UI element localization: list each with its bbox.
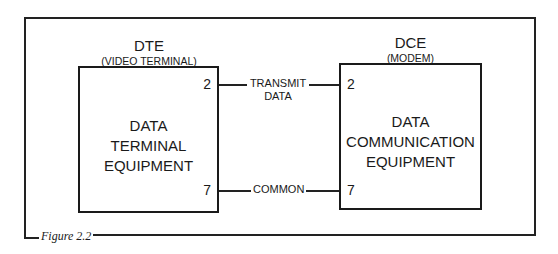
dce-box: DATA COMMUNICATION EQUIPMENT 2 7 xyxy=(339,63,482,210)
dce-box-label: DATA COMMUNICATION EQUIPMENT xyxy=(341,112,480,172)
transmit-data-label-line: DATA xyxy=(249,90,307,103)
dce-box-line: DATA xyxy=(341,112,480,132)
dte-title: DTE xyxy=(78,37,220,54)
figure-caption: Figure 2.2 xyxy=(39,229,93,244)
dte-pin-2: 2 xyxy=(203,76,211,92)
dte-pin-7: 7 xyxy=(203,182,211,198)
dce-pin-2: 2 xyxy=(347,76,355,92)
transmit-data-label: TRANSMIT DATA xyxy=(247,77,309,103)
dte-box-line: DATA xyxy=(80,116,217,136)
dce-pin-7: 7 xyxy=(347,182,355,198)
dce-box-line: COMMUNICATION xyxy=(341,132,480,152)
dce-title: DCE xyxy=(339,34,482,51)
dte-box: DATA TERMINAL EQUIPMENT 2 7 xyxy=(78,66,219,213)
frame-top xyxy=(24,17,536,19)
frame-bottom-left-stub xyxy=(24,237,40,239)
frame-right xyxy=(534,17,536,234)
frame-bottom xyxy=(88,234,536,236)
dte-box-label: DATA TERMINAL EQUIPMENT xyxy=(80,116,217,176)
frame-left xyxy=(24,17,26,238)
dte-box-line: EQUIPMENT xyxy=(80,156,217,176)
transmit-data-label-line: TRANSMIT xyxy=(249,77,307,90)
dce-box-line: EQUIPMENT xyxy=(341,152,480,172)
common-label: COMMON xyxy=(251,183,306,196)
dte-box-line: TERMINAL xyxy=(80,136,217,156)
